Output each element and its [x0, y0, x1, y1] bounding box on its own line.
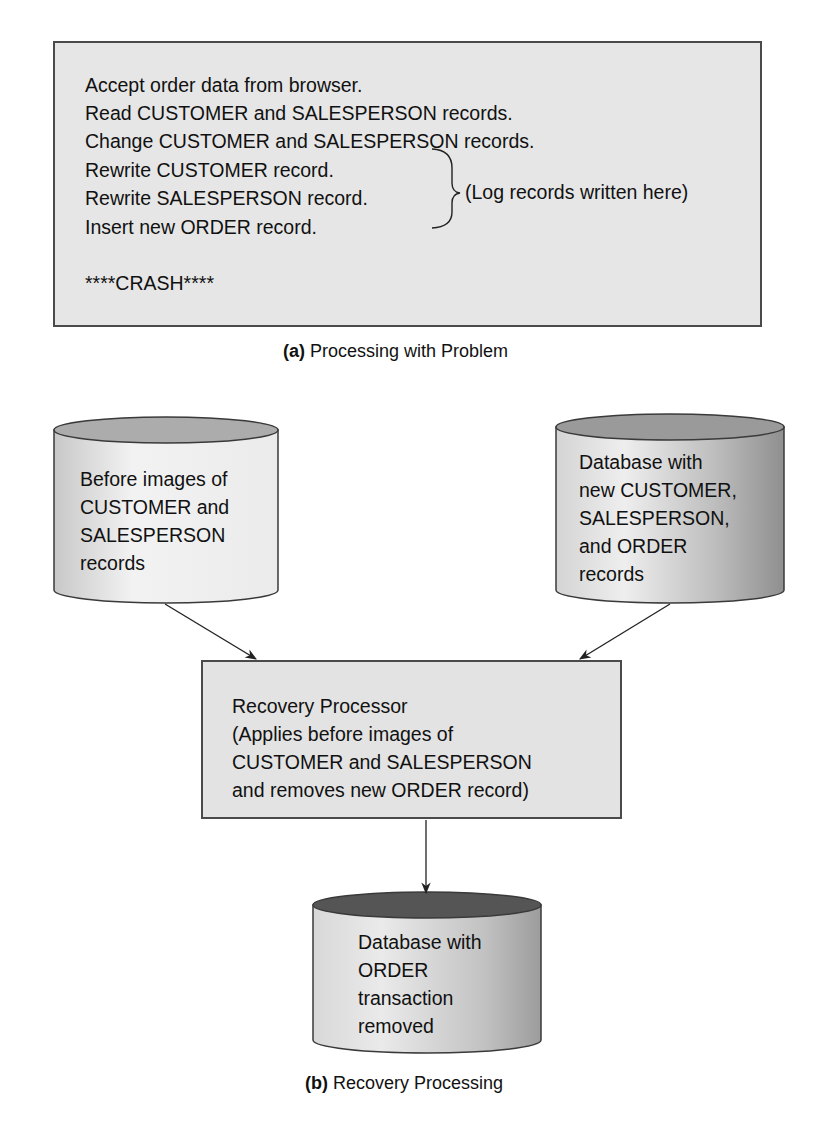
log-records-annotation: (Log records written here) — [465, 180, 688, 204]
database-result-label-1: Database with — [358, 928, 482, 956]
step-insert-order: Insert new ORDER record. — [85, 215, 317, 239]
database-new-label-4: and ORDER — [579, 532, 687, 560]
database-new-label-2: new CUSTOMER, — [579, 476, 737, 504]
before-images-label-3: SALESPERSON — [80, 521, 225, 549]
database-new-label-1: Database with — [579, 448, 703, 476]
database-new-label-5: records — [579, 560, 644, 588]
before-images-label-1: Before images of — [80, 465, 227, 493]
step-read-records: Read CUSTOMER and SALESPERSON records. — [85, 101, 513, 125]
caption-a-text: Processing with Problem — [310, 341, 508, 361]
before-images-label-4: records — [80, 549, 145, 577]
caption-b-label: (b) — [305, 1073, 328, 1093]
database-new-label-3: SALESPERSON, — [579, 504, 730, 532]
step-rewrite-customer: Rewrite CUSTOMER record. — [85, 158, 334, 182]
recovery-processor-title: Recovery Processor — [232, 694, 408, 718]
database-result-label-3: transaction — [358, 984, 453, 1012]
arrow-before-images-to-processor — [165, 604, 256, 659]
caption-a: (a) Processing with Problem — [283, 341, 508, 362]
caption-b: (b) Recovery Processing — [305, 1073, 503, 1094]
crash-marker: ****CRASH**** — [85, 271, 214, 295]
before-images-label-2: CUSTOMER and — [80, 493, 229, 521]
caption-b-text: Recovery Processing — [333, 1073, 503, 1093]
step-accept-order: Accept order data from browser. — [85, 73, 362, 97]
step-rewrite-salesperson: Rewrite SALESPERSON record. — [85, 186, 368, 210]
recovery-processor-desc-1: (Applies before images of — [232, 722, 453, 746]
recovery-processor-desc-3: and removes new ORDER record) — [232, 778, 529, 802]
database-result-label-2: ORDER — [358, 956, 428, 984]
database-result-label-4: removed — [358, 1012, 434, 1040]
step-change-records: Change CUSTOMER and SALESPERSON records. — [85, 129, 534, 153]
caption-a-label: (a) — [283, 341, 305, 361]
recovery-processor-desc-2: CUSTOMER and SALESPERSON — [232, 750, 532, 774]
arrow-database-to-processor — [580, 604, 670, 659]
